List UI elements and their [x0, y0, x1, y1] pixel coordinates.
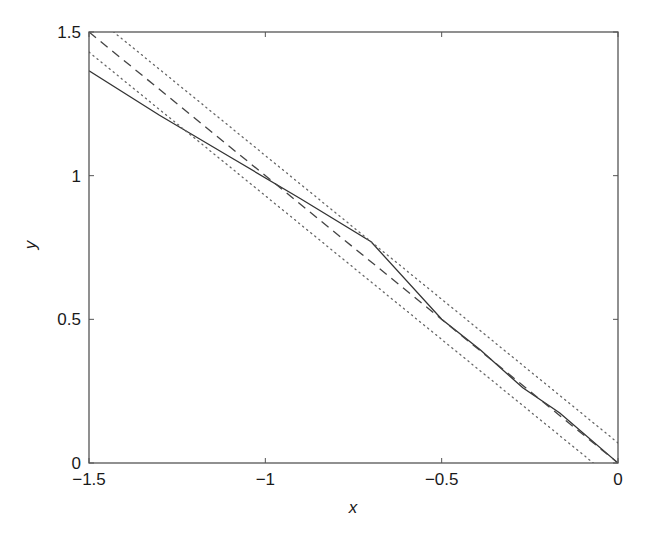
y-axis-label: y: [21, 239, 40, 250]
x-tick-label: −1: [256, 470, 275, 489]
line-chart: −1.5−1−0.5000.511.5 x y: [0, 0, 646, 541]
y-tick-label: 0: [72, 454, 81, 473]
y-tick-label: 0.5: [57, 310, 81, 329]
y-tick-label: 1.5: [57, 23, 81, 42]
x-tick-label: −0.5: [425, 470, 459, 489]
x-tick-label: 0: [613, 470, 622, 489]
background: [0, 0, 646, 541]
y-tick-label: 1: [72, 167, 81, 186]
x-axis-label: x: [348, 498, 358, 517]
